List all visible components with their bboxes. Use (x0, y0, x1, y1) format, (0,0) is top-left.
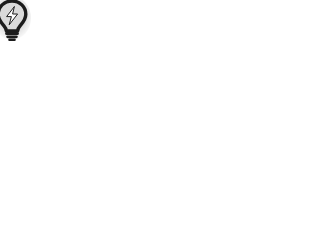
grid-svg (0, 0, 325, 233)
screen-root (0, 0, 325, 233)
grid-vertical-lines (38, 14, 294, 228)
grid-horizontal-lines (24, 30, 311, 210)
grid-canvas[interactable] (0, 0, 325, 233)
